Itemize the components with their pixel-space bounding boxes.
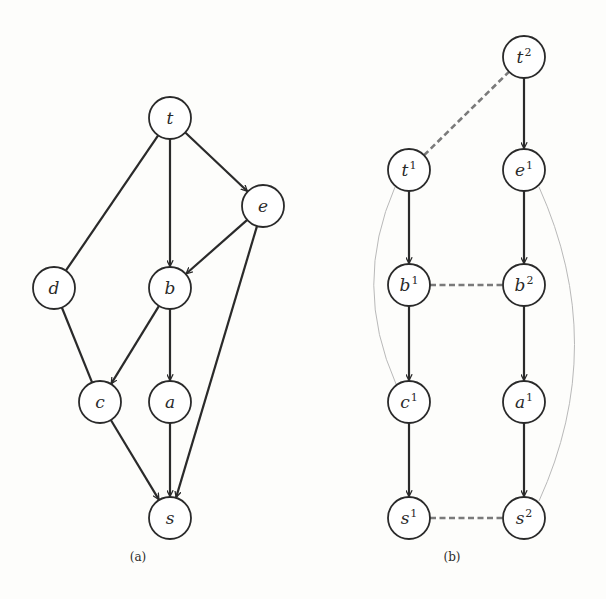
node-d: d: [33, 267, 75, 309]
node-b2: b2: [503, 264, 545, 306]
graph-figure: tedbcas (a) t2t1e1b1b2c1a1s1s2 (b): [0, 0, 606, 599]
panel-b-curves: [374, 187, 575, 501]
node-label: a: [165, 392, 175, 412]
edge-t-d: [66, 135, 158, 270]
node-label: d: [49, 278, 60, 298]
node-label: t: [167, 108, 174, 128]
edge-t1-t2: [424, 72, 509, 155]
node-label: c: [95, 392, 105, 412]
node-s: s: [149, 497, 191, 539]
panel-a-edges: [62, 132, 257, 499]
node-e: e: [242, 185, 284, 227]
node-label: b: [165, 278, 176, 298]
panel-a-nodes: tedbcas: [33, 97, 284, 539]
edge-e-s: [176, 226, 257, 497]
panel-a-caption: (a): [130, 550, 147, 564]
edge-e-b: [186, 220, 247, 274]
node-t: t: [149, 97, 191, 139]
curve-e1-s2: [539, 187, 575, 501]
node-b1: b1: [388, 264, 430, 306]
node-s1: s1: [388, 497, 430, 539]
panel-b-caption: (b): [443, 550, 460, 564]
node-a: a: [149, 381, 191, 423]
node-label: s: [166, 508, 175, 528]
node-t1: t1: [388, 149, 430, 191]
node-s2: s2: [503, 497, 545, 539]
edge-t-e: [185, 132, 247, 191]
panel-b-nodes: t2t1e1b1b2c1a1s1s2: [388, 36, 545, 539]
node-a1: a1: [503, 381, 545, 423]
panel-b-graph: t2t1e1b1b2c1a1s1s2 (b): [374, 36, 575, 564]
node-label: e: [258, 196, 268, 216]
edge-d-c: [62, 307, 92, 382]
edge-b-c: [111, 306, 159, 384]
node-b: b: [149, 267, 191, 309]
node-t2: t2: [503, 36, 545, 78]
edge-c-s: [111, 420, 159, 500]
node-e1: e1: [503, 149, 545, 191]
node-c1: c1: [388, 381, 430, 423]
panel-a-graph: tedbcas (a): [33, 97, 284, 564]
node-c: c: [79, 381, 121, 423]
